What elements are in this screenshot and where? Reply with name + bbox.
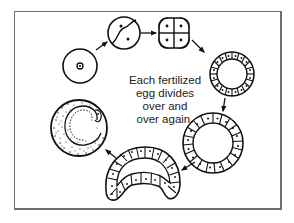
arrow-icon <box>223 98 225 111</box>
arrow-icon <box>96 42 107 50</box>
single-cell-stage <box>63 49 97 83</box>
caption-line-2: egg divides <box>112 87 218 100</box>
caption-line-3: over and <box>112 100 218 113</box>
arrow-icon <box>192 40 204 52</box>
embryo-stage <box>51 100 107 156</box>
arrow-icon <box>106 150 116 158</box>
gastrula-stage <box>106 147 180 200</box>
four-cell-stage <box>159 18 189 48</box>
caption-line-4: over again. <box>112 113 218 126</box>
caption-text: Each fertilized egg divides over and ove… <box>112 74 218 126</box>
two-cell-stage <box>108 17 140 49</box>
caption-line-1: Each fertilized <box>112 74 218 87</box>
